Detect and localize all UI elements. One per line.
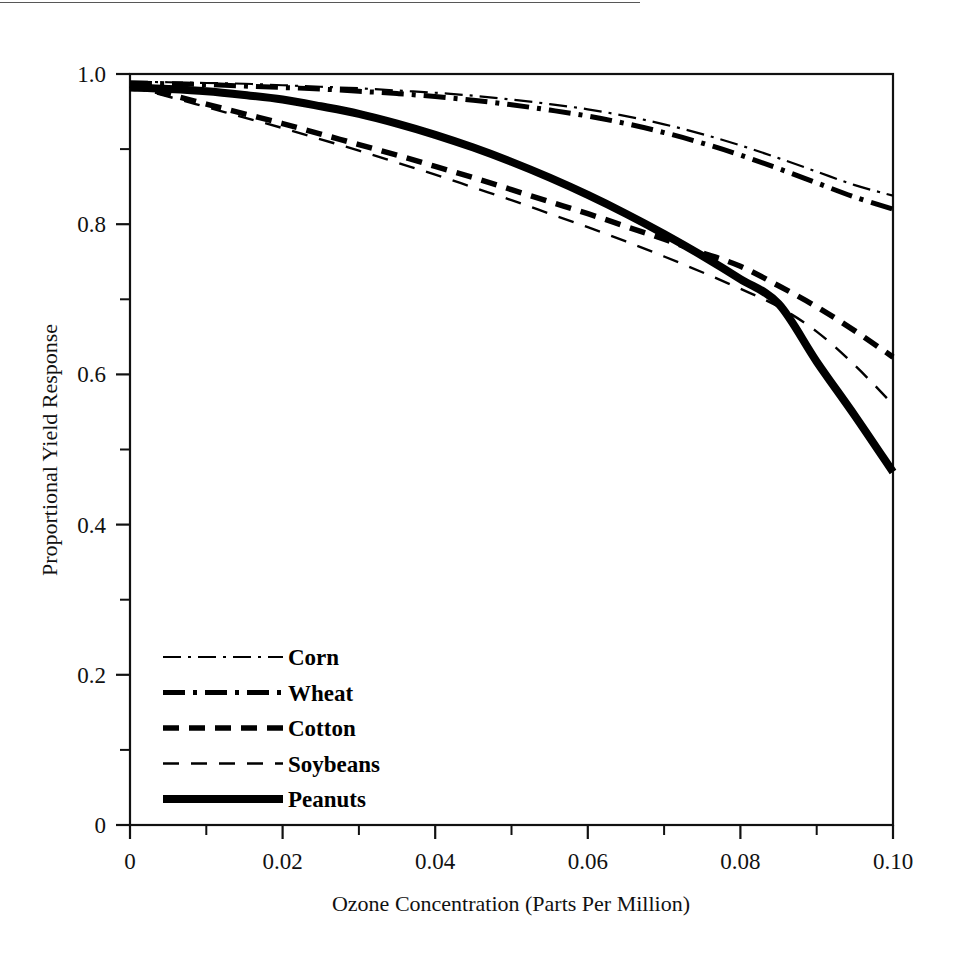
y-tick-label: 0.4 — [77, 513, 106, 538]
y-tick-label: 0.6 — [77, 362, 106, 387]
x-tick-label: 0 — [124, 849, 136, 874]
x-tick-label: 0.06 — [568, 849, 608, 874]
chart-legend: CornWheatCottonSoybeansPeanuts — [163, 645, 380, 812]
y-tick-label: 1.0 — [77, 62, 106, 87]
series-line-cotton — [130, 85, 893, 357]
y-tick-label: 0 — [95, 813, 107, 838]
x-axis-tick-labels: 00.020.040.060.080.10 — [124, 849, 913, 874]
legend-label-peanuts: Peanuts — [288, 787, 366, 812]
y-axis-tick-labels: 00.20.40.60.81.0 — [77, 62, 106, 838]
plot-frame — [130, 74, 893, 825]
legend-label-corn: Corn — [288, 645, 339, 670]
y-axis-title: Proportional Yield Response — [37, 324, 62, 576]
x-tick-label: 0.02 — [262, 849, 302, 874]
series-line-peanuts — [130, 88, 893, 473]
data-series-group — [130, 82, 893, 473]
y-tick-label: 0.2 — [77, 663, 106, 688]
x-axis-title: Ozone Concentration (Parts Per Million) — [332, 891, 690, 916]
chart-svg: 00.020.040.060.080.10 00.20.40.60.81.0 O… — [0, 0, 966, 957]
y-axis-ticks — [116, 74, 130, 825]
x-tick-label: 0.10 — [873, 849, 913, 874]
y-tick-label: 0.8 — [77, 212, 106, 237]
figure-page: 00.020.040.060.080.10 00.20.40.60.81.0 O… — [0, 0, 966, 957]
legend-label-wheat: Wheat — [288, 681, 354, 706]
ozone-yield-chart: 00.020.040.060.080.10 00.20.40.60.81.0 O… — [0, 0, 966, 957]
x-tick-label: 0.04 — [415, 849, 456, 874]
legend-label-soybeans: Soybeans — [288, 752, 380, 777]
x-axis-ticks — [130, 825, 893, 839]
series-line-soybeans — [130, 87, 893, 405]
legend-label-cotton: Cotton — [288, 716, 356, 741]
x-tick-label: 0.08 — [720, 849, 760, 874]
